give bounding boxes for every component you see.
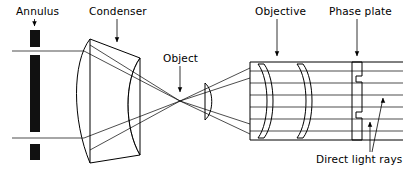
objective-label: Objective [255,5,306,17]
condenser-lens [77,39,141,163]
phase-contrast-diagram: Annulus Condenser Object Objective Phase… [0,0,403,174]
objective-barrel [250,62,403,140]
objective-lens2-front [297,64,306,138]
phase-plate-body [352,62,362,140]
condenser-back-face [77,39,91,163]
objective-lens1-back [264,64,273,138]
diagram-canvas: Annulus Condenser Object Objective Phase… [0,0,403,174]
direct-light-rays-arrow-icon-1 [372,98,383,152]
annulus-bar-middle [30,55,40,132]
ray-lower-diverging-b [180,101,250,124]
annulus-group [30,30,40,160]
object-label-group: Object [163,52,198,92]
annulus-bar-bottom [30,144,40,160]
condenser-edge-bottom [90,155,140,163]
annulus-bar-top [30,30,40,47]
annulus-label: Annulus [16,5,59,17]
objective-lens2-back [303,64,312,138]
condenser-edge-top [90,39,140,58]
ray-lower-converging [84,101,180,138]
condenser-label-group: Condenser [89,5,147,42]
ray-lower-diverging [180,101,250,134]
objective-label-group: Objective [255,5,306,56]
object-label: Object [163,52,198,64]
ray-upper-diverging [180,68,250,101]
diverging-rays [180,68,250,134]
ray-upper-diverging-b [180,78,250,101]
direct-light-rays-label-group: Direct light rays [316,98,402,165]
ray-lower-converging-b [90,101,180,150]
condenser-label: Condenser [89,5,147,17]
illumination-rays-left [12,51,84,138]
direct-light-rays-label: Direct light rays [316,153,402,165]
phase-plate [352,62,362,140]
objective-lens1-front [258,64,267,138]
annulus-label-group: Annulus [16,5,59,26]
phase-plate-label-group: Phase plate [329,5,392,56]
phase-plate-label: Phase plate [329,5,392,17]
